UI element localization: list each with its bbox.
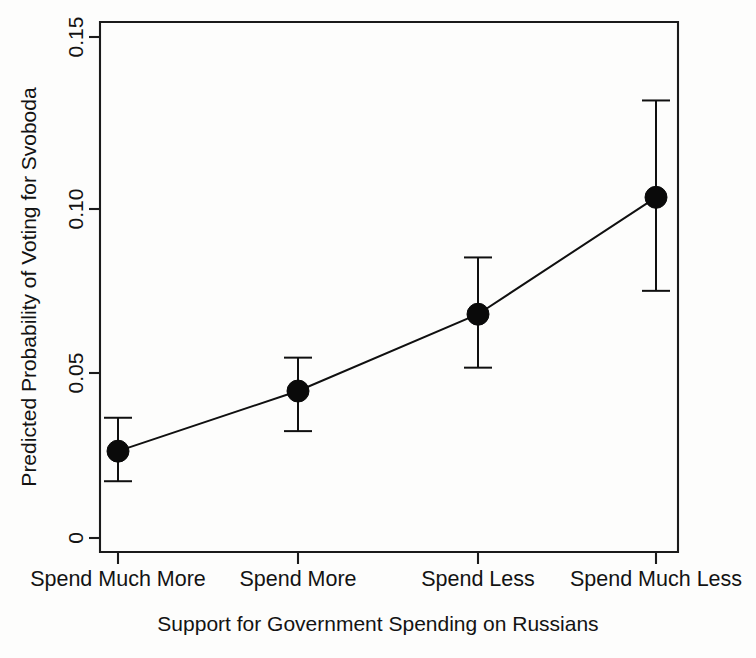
- x-axis-tick-labels: Spend Much More Spend More Spend Less Sp…: [30, 567, 742, 591]
- x-axis-title: Support for Government Spending on Russi…: [157, 612, 598, 635]
- x-tick-label-2: Spend Less: [421, 567, 535, 591]
- y-tick-label-1: 0.05: [64, 353, 87, 394]
- data-point-marker-2: [467, 303, 489, 325]
- y-axis-tick-labels: 0.15 0.10 0.05 0: [64, 17, 87, 544]
- y-tick-label-0: 0: [64, 532, 87, 544]
- data-point-group-2: [464, 257, 492, 367]
- plot-frame: [100, 22, 678, 552]
- y-axis-ticks: [89, 37, 100, 538]
- y-tick-label-3: 0.15: [64, 17, 87, 58]
- x-axis-ticks: [118, 552, 656, 564]
- data-point-group-1: [284, 358, 312, 431]
- x-tick-label-0: Spend Much More: [30, 567, 206, 591]
- y-axis-title: Predicted Probability of Voting for Svob…: [17, 87, 40, 487]
- data-point-marker-3: [645, 186, 667, 208]
- data-point-group-3: [642, 100, 670, 290]
- series-line: [118, 197, 656, 451]
- data-point-marker-1: [287, 380, 309, 402]
- data-point-marker-0: [107, 440, 129, 462]
- x-tick-label-3: Spend Much Less: [570, 567, 742, 591]
- data-point-group-0: [104, 418, 132, 481]
- chart-canvas: 0.15 0.10 0.05 0 Predicted Probability o…: [0, 0, 756, 658]
- y-tick-label-2: 0.10: [64, 189, 87, 230]
- chart-figure: 0.15 0.10 0.05 0 Predicted Probability o…: [0, 0, 756, 658]
- x-tick-label-1: Spend More: [239, 567, 356, 591]
- data-series-layer: [104, 100, 670, 481]
